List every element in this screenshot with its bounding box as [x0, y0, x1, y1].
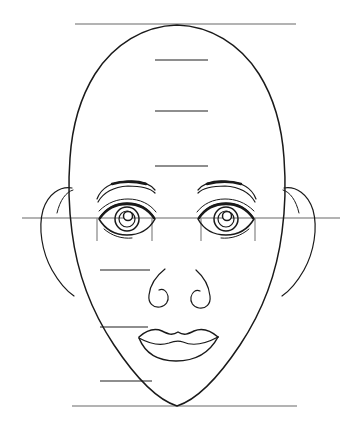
eyebrows [97, 181, 256, 202]
left-eye-pupil [124, 212, 133, 221]
right-eyebrow-lower [198, 186, 255, 202]
left-eyebrow-lower [98, 186, 155, 202]
left-eyebrow-hair [112, 182, 146, 184]
drawing-canvas [0, 0, 353, 430]
right-ear [282, 188, 315, 296]
right-eyebrow-hair [207, 182, 241, 184]
right-eye-pupil [223, 212, 232, 221]
face-proportion-drawing [0, 0, 353, 430]
left-ear-inner [57, 190, 73, 213]
nose-right-wing [191, 270, 210, 308]
nose [149, 269, 210, 308]
nose-left-wing [149, 269, 168, 307]
upper-lip [139, 330, 218, 337]
mouth [139, 330, 218, 361]
lip-line [139, 337, 218, 344]
